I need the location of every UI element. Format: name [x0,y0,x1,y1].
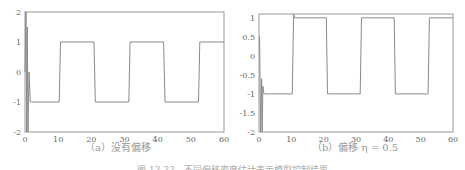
y-tick-label: -0.5 [240,71,255,80]
x-tick-label: 50 [186,135,196,144]
caption-b: （b）偏移 η = 0.5 [312,139,398,154]
y-ticks-a: -2-1012 [13,8,21,137]
y-tick-label: 0.5 [242,33,255,42]
x-tick-label: 10 [286,135,296,144]
plot-area-b [259,14,453,132]
y-tick-label: -2 [13,128,21,137]
y-ticks-b: -2-1.5-1-0.500.51 [240,14,255,137]
x-tick-label: 60 [448,135,458,144]
chart-panel-b: -2-1.5-1-0.500.51 0102030405060 （b）偏移 η … [230,0,465,160]
series-line-a [25,12,224,132]
y-tick-label: 1 [16,38,21,47]
y-tick-label: -1 [247,90,255,99]
y-tick-label: -1.5 [240,109,255,118]
y-tick-label: 0 [16,68,21,77]
plot-area-a [25,12,224,132]
chart-panel-a: -2-1012 0102030405060 （a）没有偏移 [0,0,235,160]
chart-b-svg: -2-1.5-1-0.500.51 0102030405060 [230,0,465,150]
y-tick-label: 2 [16,8,21,17]
x-tick-label: 0 [256,135,261,144]
y-tick-label: -2 [247,128,255,137]
figure-caption: 图 13-33 不同偏移密度估计表示模型控制结果 [0,163,465,170]
x-tick-label: 0 [22,135,27,144]
chart-a-svg: -2-1012 0102030405060 [0,0,235,150]
caption-a: （a）没有偏移 [85,139,151,154]
x-tick-label: 50 [416,135,426,144]
x-tick-label: 40 [153,135,163,144]
series-line-b [259,14,453,132]
x-tick-label: 10 [53,135,63,144]
y-tick-label: 0 [250,52,255,61]
y-tick-label: 1 [250,14,255,23]
x-tick-label: 60 [219,135,229,144]
y-tick-label: -1 [13,98,21,107]
